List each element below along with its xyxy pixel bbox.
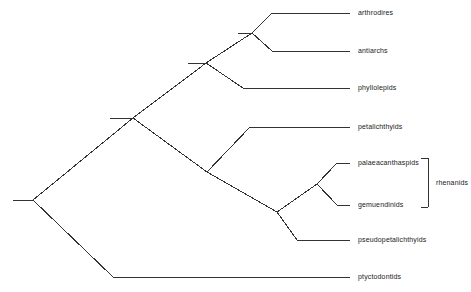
gemuendinids-branch-diagonal <box>317 184 337 205</box>
phyllolepids-branch-diagonal <box>206 63 243 88</box>
taxon-label-pseudopetalichthyids: pseudopetalichthyids <box>358 236 426 244</box>
taxon-label-antiarchs: antiarchs <box>358 47 388 55</box>
rhenanids-node-diagonal <box>277 184 317 212</box>
taxon-label-arthrodires: arthrodires <box>358 9 393 17</box>
palaeacanthaspids-branch-diagonal <box>317 163 337 184</box>
taxon-label-phyllolepids: phyllolepids <box>358 84 396 92</box>
arthrodires-branch-diagonal <box>252 13 272 33</box>
pseudopetalichthyids-branch-diagonal <box>277 212 297 240</box>
arthrodire-clade-diagonal <box>133 63 206 118</box>
taxon-label-ptyctodontids: ptyctodontids <box>358 273 401 281</box>
taxon-label-palaeacanthaspids: palaeacanthaspids <box>358 159 419 167</box>
rhenanid-pseudo-diagonal <box>207 172 277 212</box>
petalichthyid-clade-diagonal <box>133 118 207 172</box>
cladogram-branches <box>0 0 471 292</box>
taxon-label-gemuendinids: gemuendinids <box>358 201 403 209</box>
taxon-label-petalichthyids: petalichthyids <box>358 123 403 131</box>
clade-label-rhenanids: rhenanids <box>436 179 468 187</box>
antiarchs-branch-diagonal <box>252 33 272 51</box>
petalichthyids-branch-diagonal <box>207 127 250 172</box>
root-upper-diagonal <box>33 118 133 200</box>
arthrodires-antiarchs-diagonal <box>206 33 252 63</box>
ptyctodontids-branch-diagonal <box>33 200 113 277</box>
cladogram-figure: arthrodires antiarchs phyllolepids petal… <box>0 0 471 292</box>
